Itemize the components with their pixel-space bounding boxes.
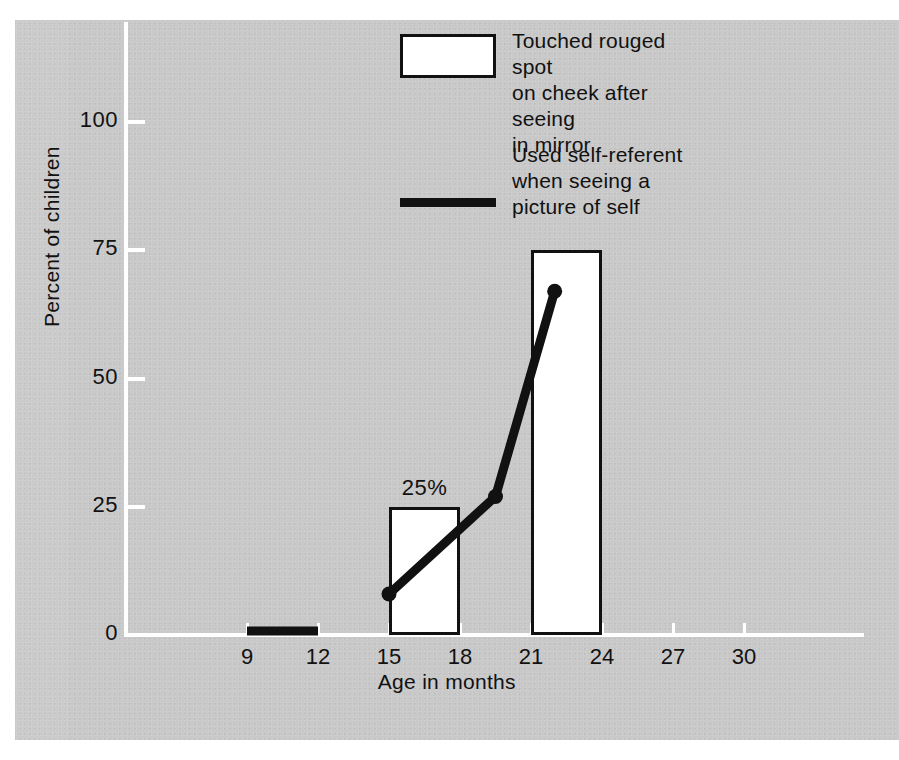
line-data-markers xyxy=(382,284,563,602)
legend-line-1: Touched rouged spot xyxy=(512,28,700,80)
legend-entry-self-referent: Used self-referent when seeing a picture… xyxy=(400,142,700,234)
legend-entry-rouge: Touched rouged spot on cheek after seein… xyxy=(400,28,700,124)
legend-label-self-referent: Used self-referent when seeing a picture… xyxy=(512,142,700,220)
chart-legend: Touched rouged spot on cheek after seein… xyxy=(400,28,700,252)
legend-swatch-line-icon xyxy=(400,198,496,207)
line-marker-15mo xyxy=(382,586,397,601)
line-marker-22mo xyxy=(547,284,562,299)
legend-line-3: picture of self xyxy=(512,194,700,220)
legend-label-rouge: Touched rouged spot on cheek after seein… xyxy=(512,28,700,158)
line-self-referent xyxy=(389,291,555,594)
legend-swatch-bar-icon xyxy=(400,34,496,78)
legend-line-2: when seeing a xyxy=(512,168,700,194)
legend-line-1: Used self-referent xyxy=(512,142,700,168)
x-axis-label: Age in months xyxy=(126,670,768,694)
y-axis-label: Percent of children xyxy=(40,146,64,327)
line-marker-19.5mo xyxy=(488,489,503,504)
legend-line-2: on cheek after seeing xyxy=(512,80,700,132)
